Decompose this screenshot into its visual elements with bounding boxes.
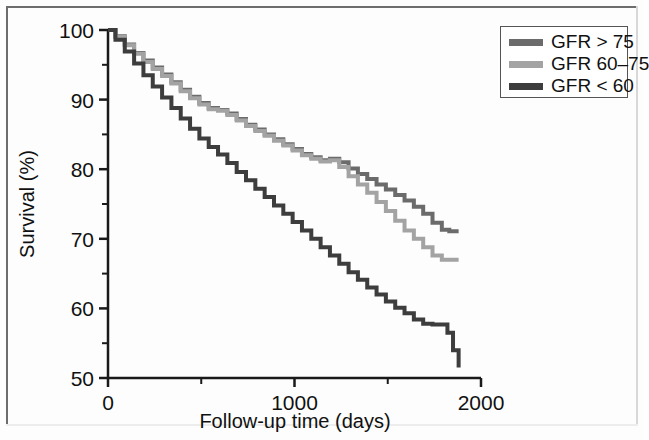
- legend-item-label: GFR 60–75: [551, 53, 649, 75]
- legend-item-label: GFR < 60: [551, 75, 634, 97]
- legend-swatch-icon: [509, 61, 543, 68]
- y-tick-label: 90: [71, 89, 94, 112]
- y-axis-tick-labels: 1009080706050: [59, 19, 94, 390]
- y-tick-label: 60: [71, 297, 94, 320]
- survival-curve-1: [108, 30, 459, 231]
- x-axis-major-ticks: [108, 378, 481, 387]
- axis-lines: [108, 30, 481, 378]
- y-axis-title: Survival (%): [16, 150, 38, 258]
- y-tick-label: 80: [71, 158, 94, 181]
- y-tick-label: 50: [71, 367, 94, 390]
- chart-legend: GFR > 75 GFR 60–75 GFR < 60: [500, 26, 628, 98]
- legend-swatch-icon: [509, 39, 543, 46]
- legend-swatch-icon: [509, 83, 543, 90]
- legend-item-label: GFR > 75: [551, 31, 634, 53]
- x-tick-label: 0: [102, 391, 114, 414]
- x-axis-title: Follow-up time (days): [199, 410, 390, 432]
- y-tick-label: 70: [71, 228, 94, 251]
- x-tick-label: 2000: [458, 391, 505, 414]
- survival-curves: [108, 30, 459, 368]
- y-tick-label: 100: [59, 19, 94, 42]
- survival-curve-2: [108, 30, 459, 260]
